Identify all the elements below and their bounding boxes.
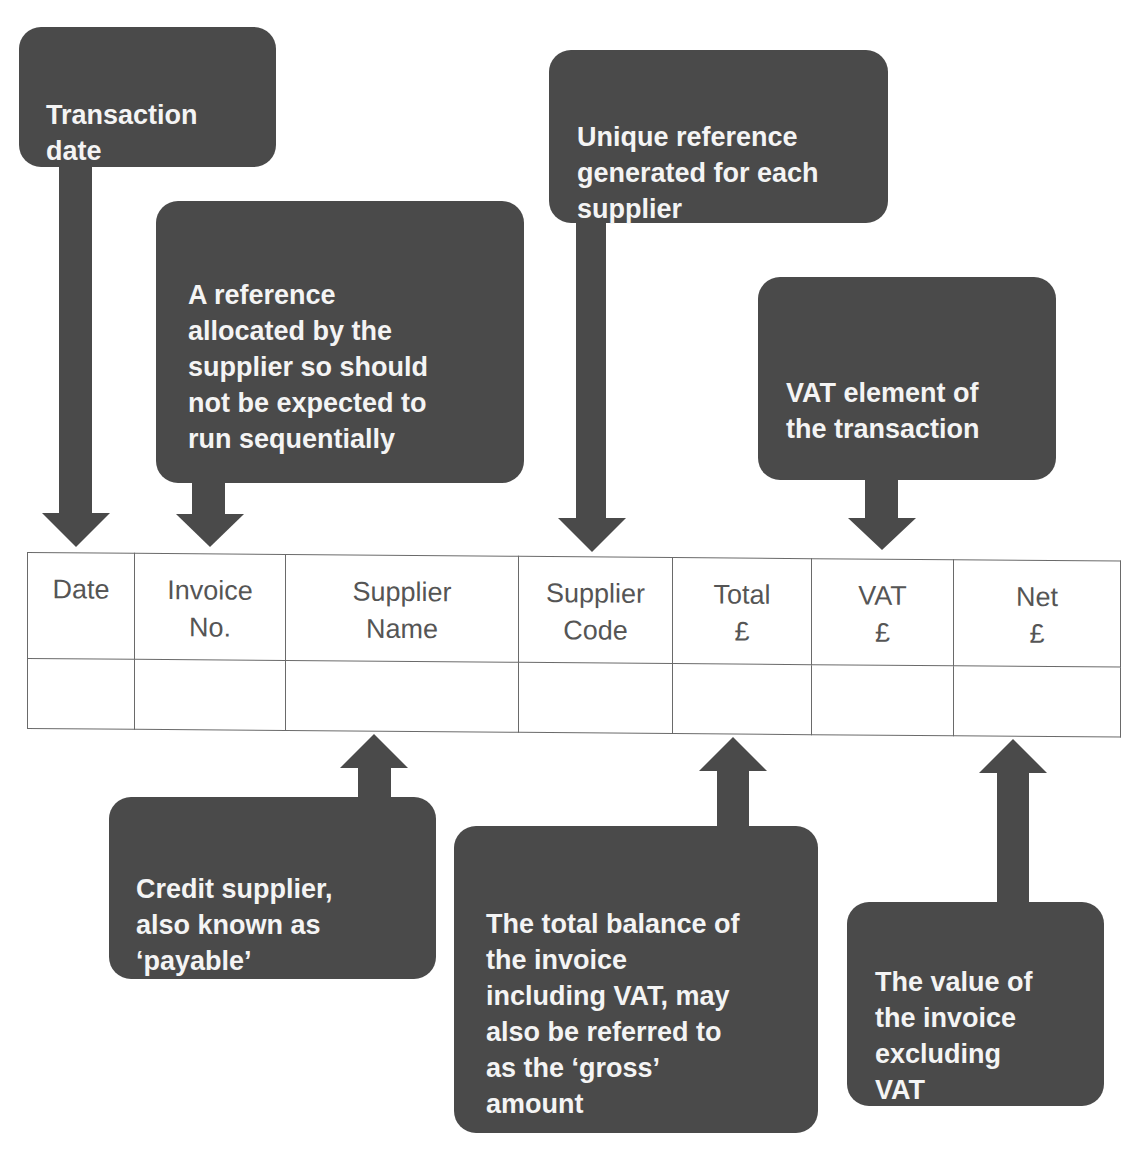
callout-total-gross: The total balance of the invoice includi… [454, 826, 818, 1133]
arrow-down-icon [42, 160, 110, 547]
callout-text: The value of the invoice excluding VAT [875, 964, 1104, 1108]
header-date: Date [28, 553, 135, 660]
cell-date [28, 659, 135, 730]
callout-text: Transaction date [46, 97, 276, 169]
arrow-up-icon [340, 734, 408, 802]
header-net: Net £ [954, 560, 1121, 667]
arrow-down-icon [558, 218, 626, 552]
cell-supplier-code [519, 662, 673, 733]
cell-invoice-no [135, 659, 286, 730]
invoice-table: Date Invoice No. Supplier Name Supplier … [27, 552, 1121, 738]
header-supplier-code: Supplier Code [519, 556, 673, 663]
header-vat: VAT £ [812, 559, 954, 666]
callout-vat-element: VAT element of the transaction [758, 277, 1056, 480]
callout-text: A reference allocated by the supplier so… [188, 277, 524, 457]
callout-invoice-reference: A reference allocated by the supplier so… [156, 201, 524, 483]
header-invoice-no: Invoice No. [135, 553, 286, 660]
cell-total [673, 664, 812, 735]
header-supplier-name: Supplier Name [286, 555, 519, 663]
callout-transaction-date: Transaction date [19, 27, 276, 167]
table-row [28, 659, 1121, 738]
arrow-up-icon [699, 737, 767, 831]
callout-text: The total balance of the invoice includi… [486, 906, 818, 1122]
callout-supplier-name: Credit supplier, also known as ‘payable’ [109, 797, 436, 979]
table-header-row: Date Invoice No. Supplier Name Supplier … [28, 553, 1121, 668]
cell-vat [812, 665, 954, 736]
header-total: Total £ [673, 558, 812, 665]
cell-net [954, 666, 1121, 737]
arrow-up-icon [979, 739, 1047, 906]
callout-net-value: The value of the invoice excluding VAT [847, 902, 1104, 1106]
callout-text: VAT element of the transaction [786, 375, 1056, 447]
callout-text: Unique reference generated for each supp… [577, 119, 888, 227]
cell-supplier-name [286, 661, 519, 733]
callout-text: Credit supplier, also known as ‘payable’ [136, 871, 436, 979]
callout-supplier-code: Unique reference generated for each supp… [549, 50, 888, 223]
